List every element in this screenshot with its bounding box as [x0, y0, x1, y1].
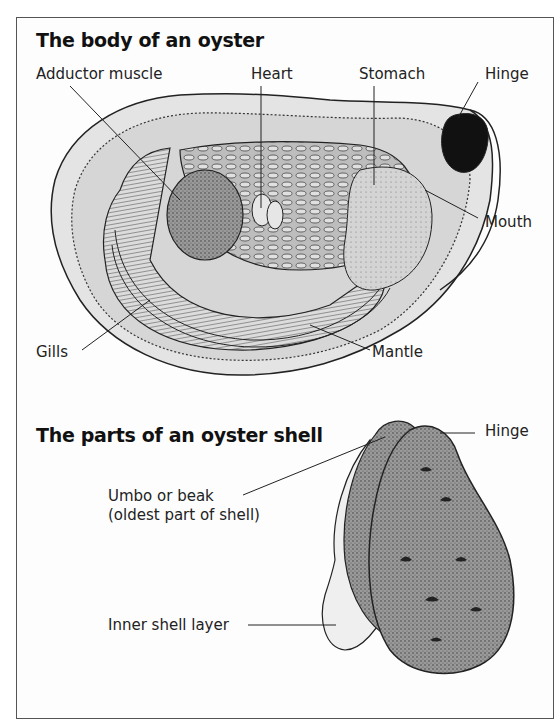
body-section-title: The body of an oyster	[36, 29, 264, 51]
label-umbo: Umbo or beak	[108, 487, 214, 505]
oyster-body-diagram	[51, 82, 500, 375]
shell-section-title: The parts of an oyster shell	[36, 424, 323, 446]
oyster-illustration	[0, 0, 559, 726]
label-gills: Gills	[36, 343, 68, 361]
adductor-muscle	[167, 170, 243, 260]
oyster-shell-diagram	[243, 421, 514, 673]
label-mantle: Mantle	[372, 343, 423, 361]
label-hinge: Hinge	[485, 65, 529, 83]
label-adductor-muscle: Adductor muscle	[36, 65, 162, 83]
label-shell-hinge: Hinge	[485, 422, 529, 440]
label-mouth: Mouth	[485, 213, 532, 231]
label-stomach: Stomach	[359, 65, 425, 83]
front-valve	[369, 426, 514, 673]
label-heart: Heart	[251, 65, 293, 83]
label-umbo-note: (oldest part of shell)	[108, 506, 260, 524]
label-inner-shell-layer: Inner shell layer	[108, 616, 229, 634]
